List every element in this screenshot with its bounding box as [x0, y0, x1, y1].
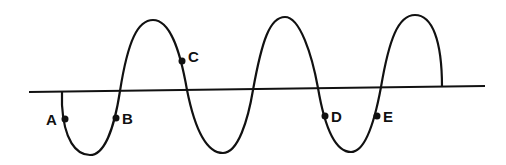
point-d-label: D [331, 108, 342, 125]
equilibrium-axis [29, 86, 485, 92]
point-a-dot [62, 116, 69, 123]
wave-curve [62, 15, 442, 155]
point-e-dot [374, 113, 381, 120]
point-c: C [179, 48, 200, 65]
point-d: D [322, 108, 343, 125]
point-d-dot [322, 113, 329, 120]
point-b-dot [113, 115, 120, 122]
point-c-label: C [188, 48, 199, 65]
point-b-label: B [122, 110, 133, 127]
wave-diagram: A B C D E [0, 0, 506, 165]
point-e-label: E [383, 108, 393, 125]
point-c-dot [179, 58, 186, 65]
point-a-label: A [46, 111, 57, 128]
